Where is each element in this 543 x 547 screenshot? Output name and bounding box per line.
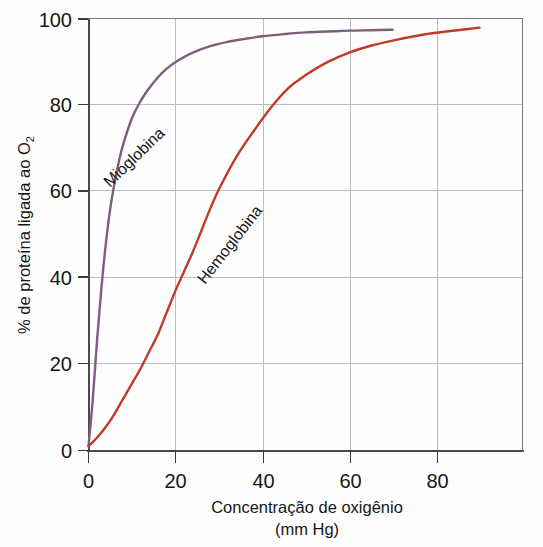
x-tick-label-20: 20 [164,470,186,492]
y-axis-title: % de proteína ligada ao O2 [15,136,36,334]
chart-svg: 0 20 40 60 80 100 0 20 40 60 80 Concentr… [0,0,543,547]
x-axis-title-line2: (mm Hg) [275,520,339,538]
oxygen-binding-curve-figure: 0 20 40 60 80 100 0 20 40 60 80 Concentr… [0,0,543,547]
y-tick-label-60: 60 [50,180,72,202]
x-tick-label-0: 0 [83,470,94,492]
x-tick-label-60: 60 [339,470,361,492]
figure-background [0,0,543,547]
y-tick-label-80: 80 [50,94,72,116]
x-tick-label-40: 40 [252,470,274,492]
y-tick-label-100: 100 [39,9,72,31]
y-axis-title-subscript: 2 [24,136,36,142]
y-axis-title-main: % de proteína ligada ao O [15,142,33,334]
x-axis-title-line1: Concentração de oxigênio [211,498,403,516]
x-tick-label-80: 80 [426,470,448,492]
y-tick-label-20: 20 [50,353,72,375]
y-tick-label-0: 0 [61,440,72,462]
y-tick-label-40: 40 [50,267,72,289]
y-axis-title-text: % de proteína ligada ao O2 [15,136,36,334]
